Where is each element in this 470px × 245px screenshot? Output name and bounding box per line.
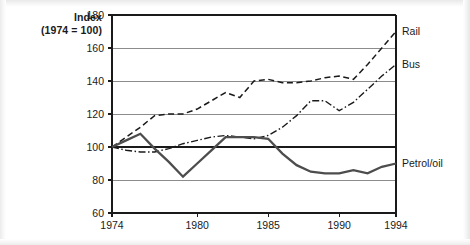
series-label-rail: Rail: [402, 25, 420, 37]
series-labels: RailBusPetrol/oil: [402, 25, 443, 169]
x-tick-label: 1994: [384, 219, 408, 231]
y-tick-label: 100: [86, 141, 104, 153]
x-tick-label: 1980: [186, 219, 210, 231]
series-line-bus: [112, 65, 396, 152]
chart-figure: Index (1974 = 100) 6080100120140160180 1…: [0, 0, 470, 245]
series-line-petrol-oil: [112, 134, 396, 177]
y-tick-label: 180: [86, 9, 104, 21]
y-tick-label: 140: [86, 75, 104, 87]
x-tick-labels: 19741980198519901994: [100, 219, 408, 231]
series-label-bus: Bus: [402, 58, 420, 70]
series-line-rail: [112, 32, 396, 148]
data-series: [112, 32, 396, 177]
y-tick-label: 80: [92, 174, 104, 186]
y-tick-label: 160: [86, 42, 104, 54]
gridlines: [112, 15, 396, 180]
x-tick-label: 1990: [328, 219, 352, 231]
y-tick-labels: 6080100120140160180: [86, 9, 104, 219]
y-tick-label: 120: [86, 108, 104, 120]
series-label-petrol: Petrol/oil: [402, 157, 443, 169]
line-chart: 6080100120140160180 19741980198519901994…: [0, 0, 470, 245]
x-tick-label: 1985: [257, 219, 281, 231]
x-tick-label: 1974: [100, 219, 124, 231]
y-tick-label: 60: [92, 207, 104, 219]
